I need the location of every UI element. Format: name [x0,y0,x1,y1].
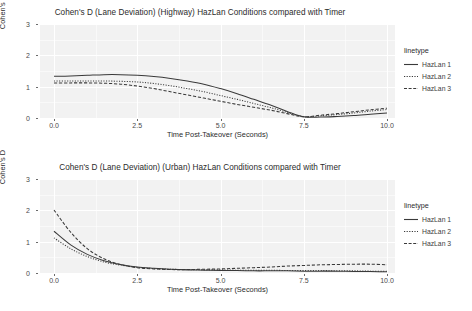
x-axis-title-highway: Time Post-Takeover (Seconds) [40,130,395,139]
legend-label-hazlan-3: HazLan 3 [422,85,451,92]
x-tick-label-2: 5.0 [204,277,238,284]
x-tick-label-4: 10.0 [370,277,404,284]
y-tick-label-3: 3 [0,21,30,28]
legend-item-hazlan-2[interactable]: HazLan 2 [404,71,470,82]
x-tick-label-1: 2.5 [120,122,154,129]
legend-key-dotted-icon [404,72,418,81]
legend-item-hazlan-1[interactable]: HazLan 1 [404,59,470,70]
series-line-hazlan-3 [54,83,387,117]
y-axis-title-urban: Cohen's D [0,137,7,197]
x-tick-mark-0 [54,274,55,276]
x-tick-label-1: 2.5 [120,277,154,284]
y-tick-mark-1 [36,242,38,243]
legend-label-hazlan-2: HazLan 2 [422,73,451,80]
y-tick-mark-0 [36,273,38,274]
legend-key-solid-icon [404,215,418,224]
legend-highway: linetype HazLan 1 HazLan 2 HazLan 3 [404,46,470,95]
chart-panel-urban: Cohen's D (Lane Deviation) (Urban) HazLa… [0,157,472,307]
x-axis-title-urban: Time Post-Takeover (Seconds) [40,285,395,294]
y-tick-mark-2 [36,210,38,211]
x-tick-mark-2 [221,119,222,121]
legend-title-highway: linetype [404,46,470,55]
legend-label-hazlan-2: HazLan 2 [422,228,451,235]
series-line-hazlan-2 [54,238,387,271]
x-tick-mark-3 [304,119,305,121]
chart-title-highway: Cohen's D (Lane Deviation) (Highway) Haz… [0,8,400,17]
series-lines-urban [40,179,395,274]
legend-key-dashed-icon [404,84,418,93]
legend-item-hazlan-3[interactable]: HazLan 3 [404,83,470,94]
y-tick-mark-3 [36,179,38,180]
x-tick-mark-0 [54,119,55,121]
legend-label-hazlan-3: HazLan 3 [422,240,451,247]
y-tick-label-1: 1 [0,84,30,91]
legend-item-hazlan-3[interactable]: HazLan 3 [404,238,470,249]
series-lines-highway [40,24,395,119]
y-tick-mark-2 [36,55,38,56]
y-tick-label-3: 3 [0,176,30,183]
legend-item-hazlan-2[interactable]: HazLan 2 [404,226,470,237]
chart-page: Cohen's D (Lane Deviation) (Highway) Haz… [0,0,472,311]
legend-key-dashed-icon [404,239,418,248]
y-tick-label-0: 0 [0,270,30,277]
chart-panel-highway: Cohen's D (Lane Deviation) (Highway) Haz… [0,2,472,152]
x-tick-mark-1 [137,274,138,276]
x-tick-mark-1 [137,119,138,121]
plot-area-urban [40,179,395,274]
x-tick-mark-4 [387,274,388,276]
x-tick-mark-2 [221,274,222,276]
legend-key-solid-icon [404,60,418,69]
y-tick-label-2: 2 [0,52,30,59]
legend-key-dotted-icon [404,227,418,236]
legend-item-hazlan-1[interactable]: HazLan 1 [404,214,470,225]
x-tick-label-4: 10.0 [370,122,404,129]
x-tick-label-0: 0.0 [37,277,71,284]
series-line-hazlan-1 [54,231,387,272]
x-tick-label-3: 7.5 [287,122,321,129]
x-tick-label-2: 5.0 [204,122,238,129]
series-line-hazlan-2 [54,81,387,117]
legend-title-urban: linetype [404,201,470,210]
y-tick-label-2: 2 [0,207,30,214]
x-tick-label-3: 7.5 [287,277,321,284]
chart-title-urban: Cohen's D (Lane Deviation) (Urban) HazLa… [0,163,400,172]
y-tick-label-0: 0 [0,115,30,122]
y-tick-mark-1 [36,87,38,88]
y-tick-mark-0 [36,118,38,119]
legend-label-hazlan-1: HazLan 1 [422,61,451,68]
plot-area-highway [40,24,395,119]
x-tick-label-0: 0.0 [37,122,71,129]
x-tick-mark-4 [387,119,388,121]
y-tick-label-1: 1 [0,239,30,246]
legend-urban: linetype HazLan 1 HazLan 2 HazLan 3 [404,201,470,250]
legend-label-hazlan-1: HazLan 1 [422,216,451,223]
x-tick-mark-3 [304,274,305,276]
y-tick-mark-3 [36,24,38,25]
